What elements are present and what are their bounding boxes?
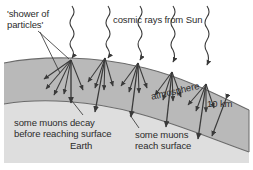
cosmic-ray-diagram: 'shower of particles' cosmic rays from S… (0, 0, 253, 170)
cosmic-ray-wave-2 (106, 6, 110, 58)
label-shower-of-particles: 'shower of particles' (7, 9, 49, 30)
label-10-km: 10 km (207, 99, 232, 110)
label-cosmic-rays-from-sun: cosmic rays from Sun (113, 15, 202, 26)
label-some-muons-decay: some muons decay before reaching surface (14, 118, 112, 139)
cosmic-ray-wave-1 (70, 6, 74, 58)
label-earth: Earth (70, 141, 92, 152)
cosmic-ray-wave-5 (205, 6, 209, 65)
label-some-muons-reach-surface: some muons reach surface (135, 130, 191, 151)
